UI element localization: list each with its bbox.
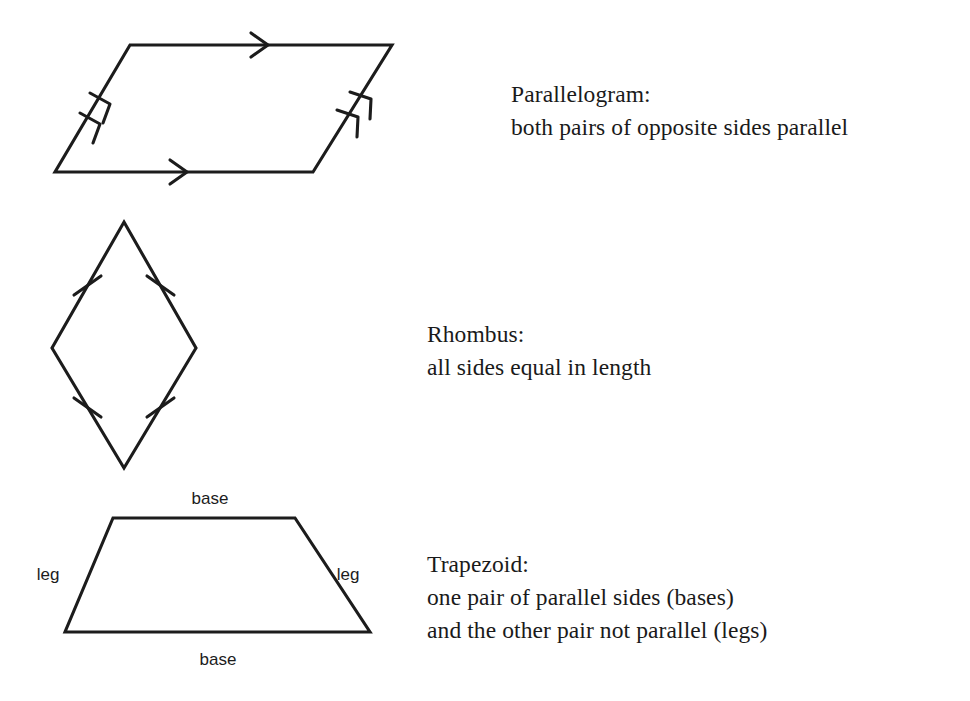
- trapezoid-description-line-1: one pair of parallel sides (bases): [427, 581, 768, 614]
- trapezoid-left-leg-label: leg: [37, 565, 60, 584]
- trapezoid-caption: Trapezoid: one pair of parallel sides (b…: [427, 548, 768, 647]
- trapezoid-bottom-base-label: base: [200, 650, 237, 669]
- trapezoid-description-line-2: and the other pair not parallel (legs): [427, 614, 768, 647]
- rhombus-caption: Rhombus: all sides equal in length: [427, 318, 651, 384]
- rhombus-heading: Rhombus:: [427, 318, 651, 351]
- rhombus-description-line-1: all sides equal in length: [427, 351, 651, 384]
- trapezoid-right-leg-label: leg: [337, 565, 360, 584]
- parallelogram-description-line-1: both pairs of opposite sides parallel: [511, 111, 848, 144]
- parallelogram-left-double-arrow-icon: [80, 93, 110, 143]
- rhombus-figure: [52, 222, 196, 468]
- parallelogram-caption: Parallelogram: both pairs of opposite si…: [511, 78, 848, 144]
- trapezoid-figure: base base leg leg: [37, 489, 370, 669]
- parallelogram-figure: [55, 33, 392, 184]
- rhombus-tick-lower-left-icon: [74, 398, 101, 417]
- parallelogram-heading: Parallelogram:: [511, 78, 848, 111]
- rhombus-tick-lower-right-icon: [147, 398, 174, 417]
- trapezoid-heading: Trapezoid:: [427, 548, 768, 581]
- rhombus-tick-upper-left-icon: [74, 276, 101, 295]
- trapezoid-top-base-label: base: [192, 489, 229, 508]
- rhombus-tick-upper-right-icon: [147, 276, 174, 295]
- trapezoid-outline: [65, 518, 370, 632]
- rhombus-outline: [52, 222, 196, 468]
- parallelogram-right-double-arrow-icon: [337, 92, 371, 137]
- parallelogram-outline: [55, 45, 392, 172]
